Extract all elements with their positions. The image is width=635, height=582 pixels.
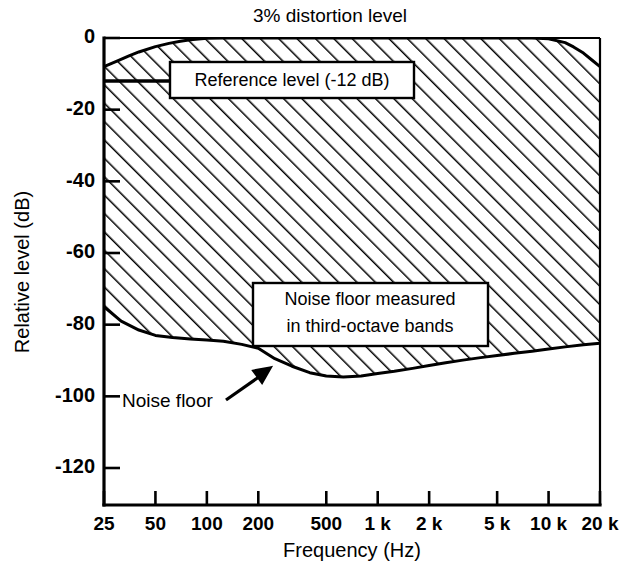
noise-floor-band-callout: Noise floor measured in third-octave ban… [253,283,488,346]
x-tick-label-5k: 5 k [484,513,511,534]
reference-level-callout-label: Reference level (-12 dB) [194,70,389,90]
y-tick-label--60: -60 [66,240,95,262]
x-tick-label-50: 50 [145,513,166,534]
y-tick-label--120: -120 [55,455,95,477]
x-axis-ticks [104,491,600,505]
x-axis-title: Frequency (Hz) [283,539,421,561]
reference-level-callout: Reference level (-12 dB) [170,62,414,98]
y-axis-title: Relative level (dB) [11,191,33,353]
x-tick-label-500: 500 [310,513,342,534]
y-tick-label--20: -20 [66,97,95,119]
chart-figure: 25501002005001 k2 k5 k10 k20 k 0-20-40-6… [0,0,635,582]
x-tick-label-2k: 2 k [416,513,443,534]
x-axis-tick-labels: 25501002005001 k2 k5 k10 k20 k [93,513,618,534]
x-tick-label-20k: 20 k [582,513,619,534]
noise-floor-band-line-2: in third-octave bands [286,316,453,336]
y-tick-label-0: 0 [84,25,95,47]
noise-floor-pointer: Noise floor [122,368,270,411]
x-tick-label-200: 200 [242,513,274,534]
y-axis-tick-labels: 0-20-40-60-80-100-120 [55,25,95,477]
chart-title: 3% distortion level [253,5,407,26]
x-tick-label-100: 100 [191,513,223,534]
noise-floor-pointer-label: Noise floor [122,390,213,411]
x-tick-label-25: 25 [93,513,115,534]
y-tick-label--100: -100 [55,384,95,406]
dynamic-range-chart: 25501002005001 k2 k5 k10 k20 k 0-20-40-6… [0,0,635,582]
y-tick-label--40: -40 [66,169,95,191]
x-tick-label-1k: 1 k [365,513,392,534]
y-tick-label--80: -80 [66,312,95,334]
x-tick-label-10k: 10 k [530,513,567,534]
noise-floor-band-line-1: Noise floor measured [284,289,455,309]
